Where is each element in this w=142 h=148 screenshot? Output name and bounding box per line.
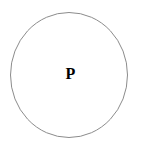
set-label-p: P (0, 66, 142, 82)
diagram-canvas: P (0, 0, 142, 148)
